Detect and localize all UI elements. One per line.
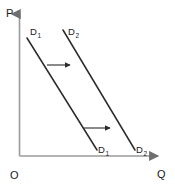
shifted-demand-bottom-label-text: D xyxy=(136,144,143,155)
shifted-demand-bottom-label-subscript: 2 xyxy=(144,150,148,157)
initial-demand-top-label-subscript: 1 xyxy=(38,32,42,39)
initial-demand-bottom-label-text: D xyxy=(98,144,105,155)
shifted-demand-top-label-text: D xyxy=(68,26,75,37)
initial-demand-curve-line xyxy=(27,38,97,150)
x-axis-label: Q xyxy=(157,168,166,180)
demand-curve-chart: P Q O D 1 D 2 D 1 D 2 xyxy=(0,0,175,189)
shifted-demand-top-label: D 2 xyxy=(68,26,80,39)
shifted-demand-curve-line xyxy=(63,30,135,150)
origin-label: O xyxy=(10,169,19,181)
initial-demand-bottom-label: D 1 xyxy=(98,144,110,157)
initial-demand-top-label: D 1 xyxy=(30,26,42,39)
initial-demand-bottom-label-subscript: 1 xyxy=(106,150,110,157)
y-axis-label: P xyxy=(6,7,13,19)
demand-shift-figure: P Q O D 1 D 2 D 1 D 2 xyxy=(0,0,175,189)
initial-demand-top-label-text: D xyxy=(30,26,37,37)
shifted-demand-top-label-subscript: 2 xyxy=(76,32,80,39)
shifted-demand-bottom-label: D 2 xyxy=(136,144,148,157)
